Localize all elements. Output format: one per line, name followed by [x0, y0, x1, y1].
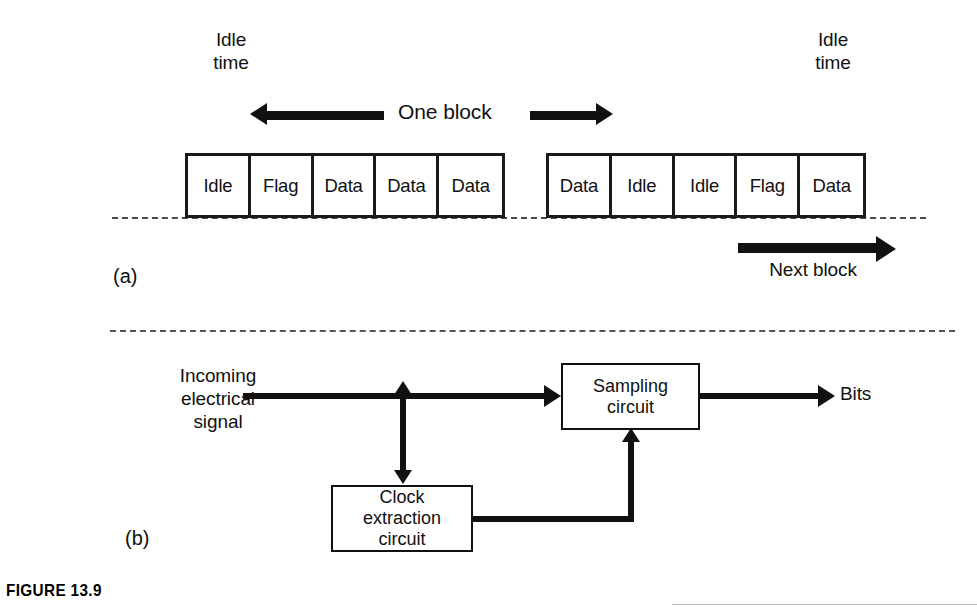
- sampling-input-arrow-head: [544, 385, 561, 407]
- one-block-label: One block: [398, 100, 528, 123]
- bits-output-line: [700, 393, 823, 399]
- one-block-arrow-right-head: [596, 103, 613, 125]
- frame-cell[interactable]: Idle: [188, 156, 251, 215]
- frame-cell[interactable]: Data: [549, 156, 612, 215]
- figure-13-9-root: Idle time Idle time One block Idle Flag …: [0, 0, 977, 611]
- section-separator-dashes: [110, 330, 955, 332]
- bits-output-label: Bits: [840, 382, 910, 405]
- clock-output-line: [473, 516, 634, 522]
- next-block-label: Next block: [738, 258, 888, 281]
- frame-cell[interactable]: Flag: [251, 156, 314, 215]
- frame-cell[interactable]: Data: [439, 156, 502, 215]
- frame-cell[interactable]: Data: [376, 156, 439, 215]
- sampling-circuit-box[interactable]: Sampling circuit: [561, 363, 700, 430]
- figure-caption: FIGURE 13.9: [6, 581, 102, 601]
- frame-cell[interactable]: Data: [314, 156, 377, 215]
- clock-branch-line: [400, 393, 406, 471]
- frame-strip-right: Data Idle Idle Flag Data: [546, 153, 866, 218]
- idle-time-right-label: Idle time: [788, 28, 878, 74]
- one-block-arrow-right-shaft: [530, 111, 598, 120]
- clock-feedback-riser: [628, 440, 634, 522]
- one-block-arrow-left-shaft: [266, 111, 384, 120]
- idle-time-left-label: Idle time: [186, 28, 276, 74]
- signal-junction-arrow-head: [394, 381, 412, 395]
- next-block-arrow-shaft: [738, 243, 881, 253]
- part-a-label: (a): [113, 265, 137, 288]
- frame-cell[interactable]: Idle: [675, 156, 738, 215]
- one-block-arrow-left-head: [250, 103, 267, 125]
- clock-extraction-circuit-box[interactable]: Clock extraction circuit: [331, 485, 473, 552]
- frame-cell[interactable]: Flag: [737, 156, 800, 215]
- frame-cell[interactable]: Data: [800, 156, 863, 215]
- part-b-label: (b): [125, 527, 149, 550]
- frame-strip-left: Idle Flag Data Data Data: [185, 153, 505, 218]
- clock-input-arrow-head: [394, 470, 412, 484]
- sampling-clock-arrow-head: [622, 428, 640, 442]
- bits-output-arrow-head: [818, 385, 835, 407]
- frame-cell[interactable]: Idle: [612, 156, 675, 215]
- page-bottom-rule: [672, 604, 977, 605]
- next-block-arrow-head: [876, 236, 896, 262]
